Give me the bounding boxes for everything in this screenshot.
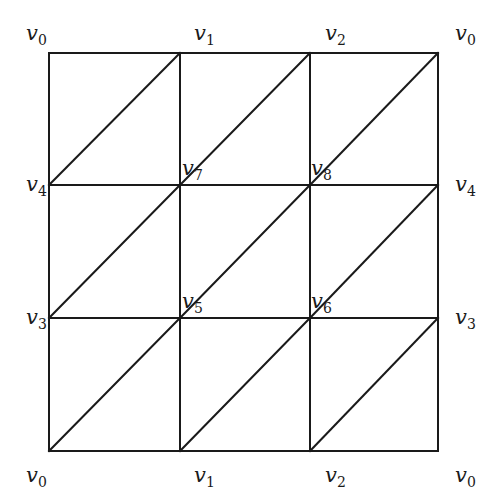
vertex-label-bottom-v1: v1 <box>194 463 215 490</box>
vertex-label-right-v4: v4 <box>455 172 476 199</box>
diagonal-edge <box>49 185 180 318</box>
diagonal-edge <box>180 318 310 451</box>
vertex-label-inner-v7: v7 <box>182 156 203 183</box>
diagonal-edge <box>180 185 310 318</box>
diagonal-edge <box>310 318 438 451</box>
vertex-label-inner-v8: v8 <box>311 156 332 183</box>
vertex-label-left-v4: v4 <box>26 172 47 199</box>
vertex-label-inner-v6: v6 <box>311 289 332 316</box>
vertex-labels: v0v1v2v0v4v4v7v8v3v3v5v6v0v1v2v0 <box>26 21 476 490</box>
vertex-label-bottom-v2: v2 <box>325 463 346 490</box>
vertex-label-right-v3: v3 <box>455 305 476 332</box>
diagonal-edge <box>310 185 438 318</box>
diagonal-edge <box>180 53 310 185</box>
vertex-label-bottom-v0-right: v0 <box>455 463 476 490</box>
diagonal-edge <box>310 53 438 185</box>
triangulation-diagram: v0v1v2v0v4v4v7v8v3v3v5v6v0v1v2v0 <box>0 0 499 504</box>
vertex-label-top-v1: v1 <box>194 21 215 48</box>
vertex-label-top-v2: v2 <box>325 21 346 48</box>
vertex-label-top-v0-right: v0 <box>455 21 476 48</box>
vertex-label-inner-v5: v5 <box>182 289 203 316</box>
grid-edges <box>49 53 438 451</box>
vertex-label-bottom-v0-left: v0 <box>26 463 47 490</box>
vertex-label-left-v3: v3 <box>26 305 47 332</box>
diagonal-edge <box>49 318 180 451</box>
vertex-label-top-v0-left: v0 <box>26 21 47 48</box>
diagonal-edge <box>49 53 180 185</box>
